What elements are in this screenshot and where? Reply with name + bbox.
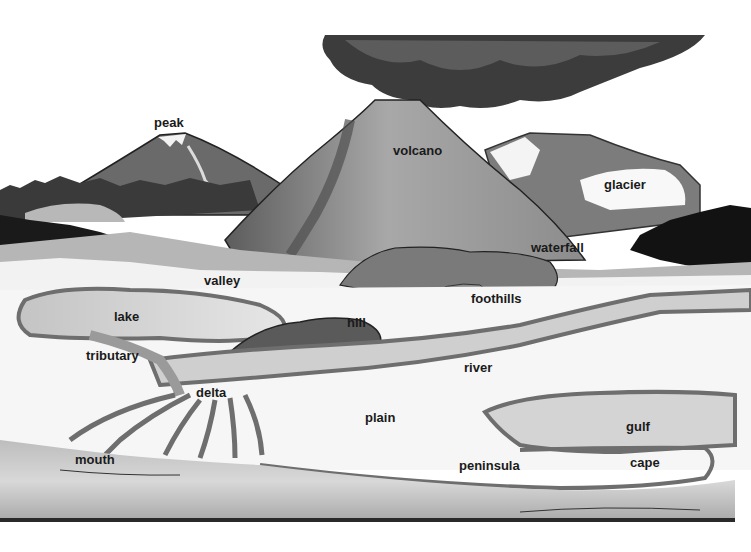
- label-glacier: glacier: [604, 178, 646, 191]
- label-peninsula: peninsula: [459, 459, 520, 472]
- label-delta: delta: [196, 386, 226, 399]
- label-waterfall: waterfall: [531, 241, 584, 254]
- smoke-plume: [322, 35, 705, 108]
- label-tributary: tributary: [86, 349, 139, 362]
- label-foothills: foothills: [471, 292, 522, 305]
- label-hill: hill: [347, 316, 366, 329]
- label-gulf: gulf: [626, 420, 650, 433]
- label-lake: lake: [114, 310, 139, 323]
- label-mouth: mouth: [75, 453, 115, 466]
- label-volcano: volcano: [393, 144, 442, 157]
- gulf-water: [485, 392, 735, 452]
- label-cape: cape: [630, 456, 660, 469]
- label-river: river: [464, 361, 492, 374]
- label-valley: valley: [204, 274, 240, 287]
- label-peak: peak: [154, 116, 184, 129]
- label-plain: plain: [365, 411, 395, 424]
- landform-diagram: peak volcano glacier waterfall valley fo…: [0, 0, 751, 552]
